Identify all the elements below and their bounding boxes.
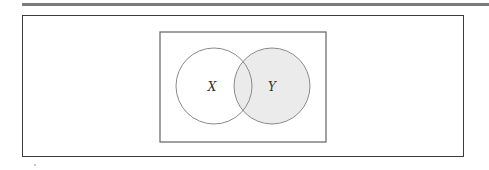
set-y-label: Y bbox=[268, 80, 277, 94]
set-x-label: X bbox=[207, 80, 217, 94]
scan-speck bbox=[34, 164, 36, 166]
venn-diagram: X Y bbox=[0, 0, 489, 170]
